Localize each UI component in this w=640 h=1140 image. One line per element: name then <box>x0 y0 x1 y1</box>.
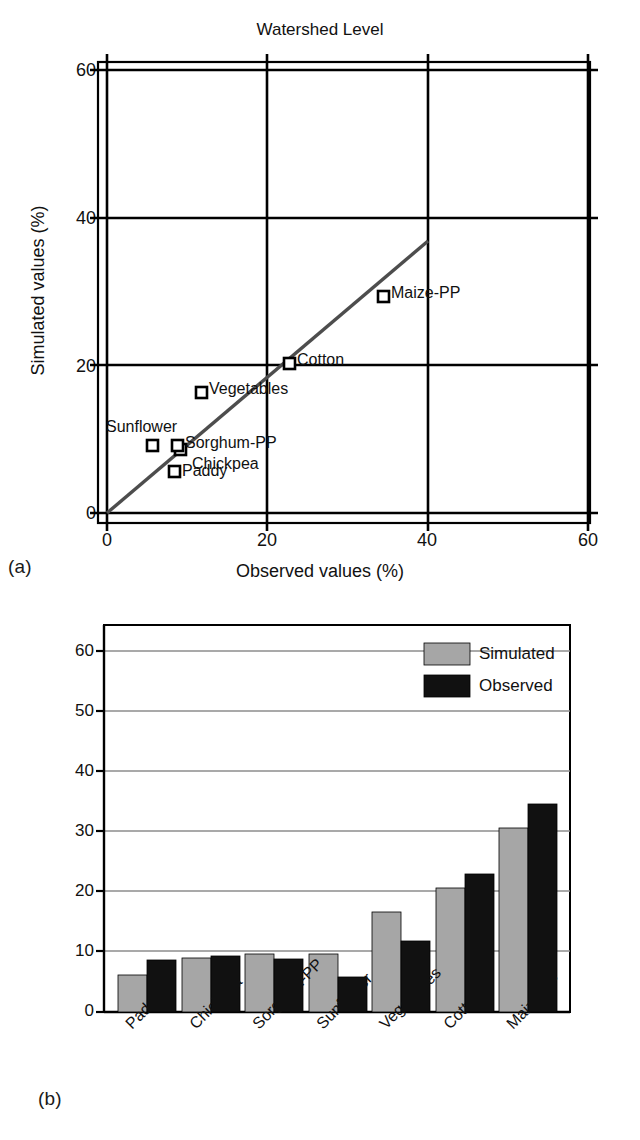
panel-a-letter: (a) <box>8 556 32 578</box>
panel-b-bar-vegetables-simulated[interactable] <box>372 912 401 1012</box>
panel-a-point-paddy[interactable] <box>169 466 180 477</box>
panel-a-label-maize-pp: Maize-PP <box>391 284 460 302</box>
panel-a-plot-frame <box>98 62 590 523</box>
panel-b-plot-area <box>0 588 640 1140</box>
panel-b-bar-maize-pp-simulated[interactable] <box>499 828 528 1012</box>
panel-b-legend-label-observed: Observed <box>479 676 553 696</box>
figure-container: Watershed Level Simulated values (%) Obs… <box>0 0 640 1140</box>
panel-a-label-paddy: Paddy <box>182 462 227 480</box>
panel-a-scatter: Watershed Level Simulated values (%) Obs… <box>0 0 640 588</box>
panel-b-bar-chart: Crop area (%) 60 50 40 30 20 10 0 <box>0 588 640 1140</box>
panel-b-legend-swatch-simulated <box>424 643 470 665</box>
panel-a-point-maize-pp[interactable] <box>378 291 389 302</box>
panel-a-point-vegetables[interactable] <box>196 387 207 398</box>
panel-b-bar-cotton-simulated[interactable] <box>436 888 465 1012</box>
panel-a-label-cotton: Cotton <box>297 351 344 369</box>
panel-b-letter: (b) <box>38 1088 62 1110</box>
panel-a-label-sunflower: Sunflower <box>106 418 177 436</box>
panel-b-legend-label-simulated: Simulated <box>479 644 555 664</box>
panel-a-point-sorghum-pp[interactable] <box>172 440 183 451</box>
panel-a-label-sorghum-pp: Sorghum-PP <box>185 434 277 452</box>
panel-a-plot-area <box>0 0 640 588</box>
panel-a-label-vegetables: Vegetables <box>209 380 288 398</box>
panel-a-point-sunflower[interactable] <box>147 440 158 451</box>
panel-b-legend-swatch-observed <box>424 675 470 697</box>
panel-a-point-cotton[interactable] <box>284 358 295 369</box>
